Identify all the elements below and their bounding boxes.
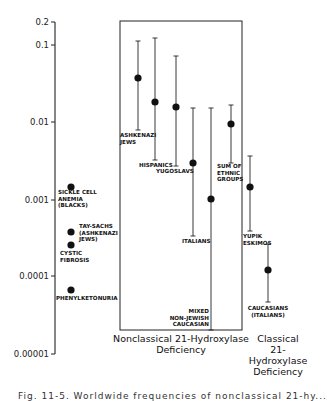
data-point: HISPANICS xyxy=(139,38,173,168)
y-tick-label: 0.01 xyxy=(30,117,49,127)
point-label: YUPIK xyxy=(242,233,263,239)
point-marker xyxy=(189,159,196,166)
y-tick-label: 0.2 xyxy=(35,17,49,27)
group-labels: Nonclassical 21-HydroxylaseDeficiencyCla… xyxy=(113,333,307,377)
point-label: CYSTIC xyxy=(60,250,82,256)
point-label: SUM OF xyxy=(217,163,242,169)
y-tick-label: 0.001 xyxy=(25,195,49,205)
y-tick-label: 0.00001 xyxy=(14,349,49,359)
point-marker xyxy=(67,286,74,293)
point-marker xyxy=(134,74,141,81)
point-marker xyxy=(172,103,179,110)
point-label: (BLACKS) xyxy=(58,202,88,208)
figure-caption: Fig. 11-5. Worldwide frequencies of nonc… xyxy=(18,391,327,401)
point-marker xyxy=(207,195,214,202)
point-label: ESKIMOS xyxy=(243,240,272,246)
point-label: ANEMIA xyxy=(58,196,83,202)
point-label: FIBROSIS xyxy=(60,257,89,263)
point-label: CAUCASIAN xyxy=(173,321,210,327)
point-label: ASHKENAZI xyxy=(120,132,156,138)
y-tick-label: 0.1 xyxy=(35,40,49,50)
data-point: SUM OFETHNICGROUPS xyxy=(217,105,243,182)
point-label: JEWS xyxy=(119,139,136,146)
point-label: MIXED xyxy=(189,308,210,314)
point-label: SICKLE CELL xyxy=(58,189,97,195)
point-marker xyxy=(67,228,74,235)
classical-group-label: 21- xyxy=(270,344,286,355)
point-label: (ITALIANS) xyxy=(251,312,285,318)
data-point: CYSTICFIBROSIS xyxy=(60,241,89,262)
point-marker xyxy=(227,120,234,127)
point-label: TAY-SACHS xyxy=(79,223,113,229)
data-point: TAY-SACHS(ASHKENAZIJEWS) xyxy=(67,223,118,243)
data-point: ASHKENAZIJEWS xyxy=(119,41,156,146)
point-marker xyxy=(151,98,158,105)
point-label: GROUPS xyxy=(217,176,243,182)
data-point: SICKLE CELLANEMIA(BLACKS) xyxy=(58,183,97,208)
point-label: PHENYLKETONURIA xyxy=(56,295,118,301)
classical-group-label: Classical xyxy=(257,333,298,344)
data-point: YUPIKESKIMOS xyxy=(242,156,272,246)
y-axis-ticks: 0.20.10.010.0010.00010.00001 xyxy=(14,17,55,359)
point-label: (ASHKENAZI xyxy=(79,230,118,236)
point-label: CAUCASIANS xyxy=(248,305,288,311)
nonclassical-group-label: Nonclassical 21-Hydroxylase xyxy=(113,333,249,344)
y-tick-label: 0.0001 xyxy=(19,271,49,281)
data-points: SICKLE CELLANEMIA(BLACKS)TAY-SACHS(ASHKE… xyxy=(56,38,288,330)
point-marker xyxy=(246,183,253,190)
point-label: ETHNIC xyxy=(217,170,240,176)
classical-group-label: Deficiency xyxy=(253,366,303,377)
point-marker xyxy=(264,266,271,273)
data-point: ITALIANS xyxy=(182,108,210,244)
nonclassical-group-label: Deficiency xyxy=(156,344,206,355)
point-marker xyxy=(67,241,74,248)
classical-group-label: Hydroxylase xyxy=(249,355,308,366)
data-point: YUGOSLAVS xyxy=(155,56,194,174)
point-label: YUGOSLAVS xyxy=(155,168,194,174)
point-label: ITALIANS xyxy=(182,238,210,244)
point-label: JEWS) xyxy=(78,236,98,243)
data-point: CAUCASIANS(ITALIANS) xyxy=(248,244,288,318)
data-point: PHENYLKETONURIA xyxy=(56,286,118,301)
